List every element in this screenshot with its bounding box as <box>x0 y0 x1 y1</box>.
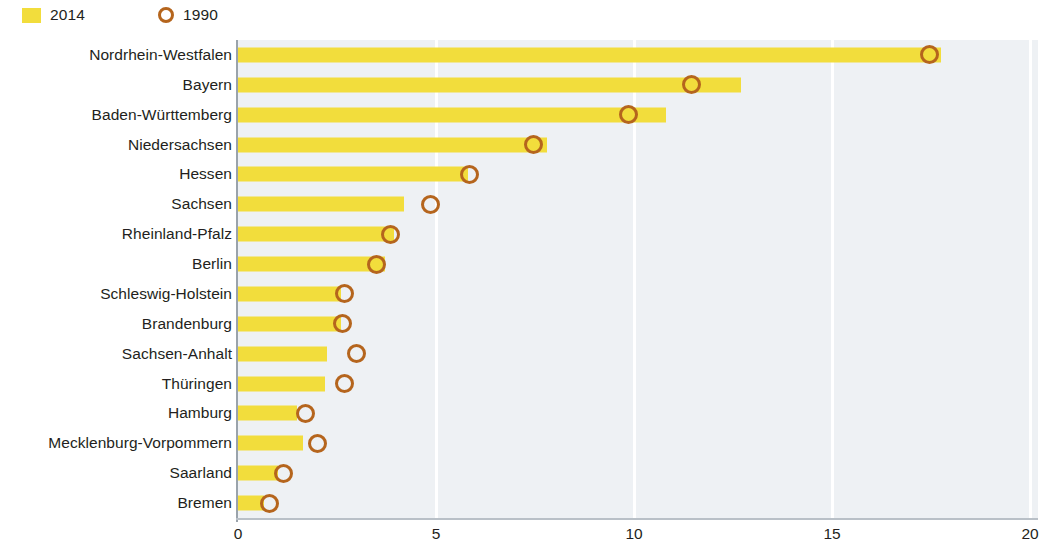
marker-1990 <box>920 45 939 64</box>
chart-rows: Nordrhein-WestfalenBayernBaden-Württembe… <box>0 40 1038 518</box>
category-label: Bayern <box>183 76 232 94</box>
category-label: Brandenburg <box>142 315 232 333</box>
bar-2014 <box>238 257 385 272</box>
bar-2014 <box>238 406 297 421</box>
category-label: Bremen <box>177 494 232 512</box>
bar-2014 <box>238 436 303 451</box>
marker-1990 <box>335 374 354 393</box>
category-label: Thüringen <box>162 375 232 393</box>
legend-label-1990: 1990 <box>183 7 218 23</box>
chart-row: Hessen <box>0 160 1038 190</box>
chart-row: Mecklenburg-Vorpommern <box>0 428 1038 458</box>
bar-2014 <box>238 167 468 182</box>
legend-label-2014: 2014 <box>50 7 85 23</box>
marker-1990 <box>381 225 400 244</box>
chart-row: Bayern <box>0 70 1038 100</box>
category-label: Hessen <box>179 165 232 183</box>
marker-1990 <box>333 314 352 333</box>
category-label: Sachsen-Anhalt <box>122 345 232 363</box>
chart-row: Sachsen-Anhalt <box>0 339 1038 369</box>
chart-row: Saarland <box>0 458 1038 488</box>
legend-circle-outline-icon <box>158 7 174 23</box>
chart-row: Thüringen <box>0 369 1038 399</box>
chart-row: Hamburg <box>0 399 1038 429</box>
category-label: Niedersachsen <box>128 136 232 154</box>
marker-1990 <box>260 494 279 513</box>
chart-row: Schleswig-Holstein <box>0 279 1038 309</box>
chart-row: Bremen <box>0 488 1038 518</box>
bar-2014 <box>238 137 547 152</box>
x-tick-label-20: 20 <box>1021 525 1038 543</box>
legend-item-2014: 2014 <box>22 4 85 26</box>
bar-2014 <box>238 466 278 481</box>
category-label: Hamburg <box>168 404 232 422</box>
legend-square-swatch-icon <box>22 8 41 23</box>
bar-2014 <box>238 346 327 361</box>
x-axis-line <box>236 518 1038 520</box>
bar-2014 <box>238 376 325 391</box>
x-axis: 05101520 <box>0 518 1038 550</box>
marker-1990 <box>335 284 354 303</box>
marker-1990 <box>460 165 479 184</box>
marker-1990 <box>619 105 638 124</box>
chart-row: Sachsen <box>0 189 1038 219</box>
category-label: Sachsen <box>171 195 232 213</box>
marker-1990 <box>274 464 293 483</box>
category-label: Rheinland-Pfalz <box>122 225 232 243</box>
chart-legend: 2014 1990 <box>0 0 1038 36</box>
x-tick-label-15: 15 <box>823 525 840 543</box>
x-tick-label-5: 5 <box>432 525 441 543</box>
chart-row: Baden-Württemberg <box>0 100 1038 130</box>
bar-2014 <box>238 197 404 212</box>
chart-row: Niedersachsen <box>0 130 1038 160</box>
chart-row: Nordrhein-Westfalen <box>0 40 1038 70</box>
category-label: Mecklenburg-Vorpommern <box>48 434 232 452</box>
x-tick-label-0: 0 <box>234 525 243 543</box>
category-label: Berlin <box>192 255 232 273</box>
x-tick-label-10: 10 <box>625 525 642 543</box>
bar-2014 <box>238 47 941 62</box>
chart-row: Rheinland-Pfalz <box>0 219 1038 249</box>
category-label: Nordrhein-Westfalen <box>89 46 232 64</box>
marker-1990 <box>367 255 386 274</box>
chart-row: Brandenburg <box>0 309 1038 339</box>
bar-2014 <box>238 227 394 242</box>
category-label: Saarland <box>170 464 232 482</box>
category-label: Schleswig-Holstein <box>100 285 232 303</box>
marker-1990 <box>421 195 440 214</box>
bar-2014 <box>238 286 341 301</box>
bar-2014 <box>238 107 666 122</box>
marker-1990 <box>296 404 315 423</box>
bar-chart: Nordrhein-WestfalenBayernBaden-Württembe… <box>0 36 1038 550</box>
bar-2014 <box>238 77 741 92</box>
marker-1990 <box>524 135 543 154</box>
marker-1990 <box>308 434 327 453</box>
marker-1990 <box>347 344 366 363</box>
category-label: Baden-Württemberg <box>92 106 232 124</box>
legend-item-1990: 1990 <box>158 4 218 26</box>
chart-row: Berlin <box>0 249 1038 279</box>
bar-2014 <box>238 316 341 331</box>
